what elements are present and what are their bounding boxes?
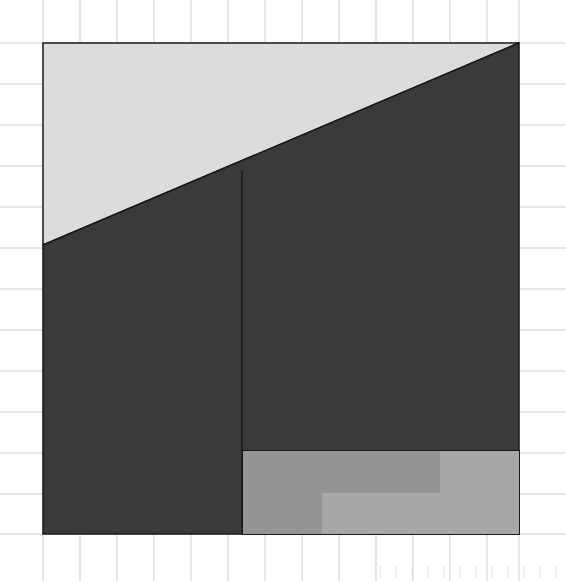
diagram-canvas bbox=[0, 0, 566, 581]
geometry-figure bbox=[0, 0, 566, 581]
shapes-layer bbox=[43, 43, 519, 534]
